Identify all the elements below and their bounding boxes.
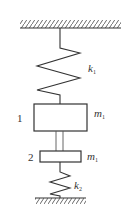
mass-1-number: 1 [17,112,23,124]
spring-k2-label: k2 [74,179,82,192]
mass-2-label: m1 [87,150,98,163]
mass-2-number: 2 [28,151,34,163]
connecting-rod [56,131,63,151]
bottom-support [35,198,86,204]
ground-hatching [35,198,86,204]
mass-2-block [40,151,81,162]
mass-1-label: m1 [94,107,105,120]
spring-k1-label: k1 [88,62,96,75]
ceiling-hatching [20,20,121,28]
spring-k2 [50,162,70,198]
spring-k1 [37,28,80,104]
mass-1-block [34,104,87,131]
top-support [20,20,121,28]
spring-mass-diagram: k1 1 m1 2 m1 k2 [0,0,129,218]
